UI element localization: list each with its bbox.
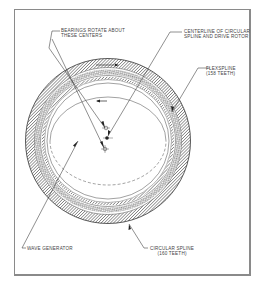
arrowhead xyxy=(101,121,105,128)
rotation-arrow-inner xyxy=(96,100,107,103)
arrowhead xyxy=(100,141,104,148)
label-line: (158 TEETH) xyxy=(206,71,236,76)
centerline-marker xyxy=(103,136,113,140)
label-line: SPLINE AND DRIVE ROTOR xyxy=(184,34,250,39)
label-line: (160 TEETH) xyxy=(150,251,194,256)
label-wave-generator: WAVE GENERATOR xyxy=(27,246,73,251)
harmonic-drive-diagram xyxy=(0,0,262,284)
label-bearings: BEARINGS ROTATE ABOUT THESE CENTERS xyxy=(61,28,125,38)
label-flexspline: FLEXSPLINE (158 TEETH) xyxy=(206,66,236,76)
flexspline-ring xyxy=(38,72,179,210)
label-circular-spline: CIRCULAR SPLINE (160 TEETH) xyxy=(150,246,194,256)
arrowhead xyxy=(108,130,111,136)
label-line: THESE CENTERS xyxy=(61,33,125,38)
circular-spline-leader xyxy=(129,224,148,248)
bearing-centers xyxy=(101,126,110,153)
label-line: WAVE GENERATOR xyxy=(27,246,73,251)
label-centerline: CENTERLINE OF CIRCULAR SPLINE AND DRIVE … xyxy=(184,29,250,39)
wave-generator xyxy=(47,83,169,199)
